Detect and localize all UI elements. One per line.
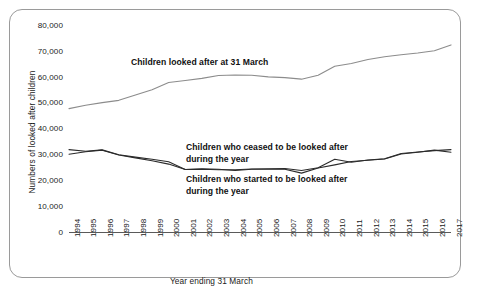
x-tick-label: 2007 <box>289 218 298 236</box>
x-tick-label: 2016 <box>438 218 447 236</box>
x-tick-label: 2015 <box>421 218 430 236</box>
y-tick-label: 0 <box>14 228 63 237</box>
x-tick-label: 1999 <box>156 218 165 236</box>
x-tick-label: 2006 <box>272 218 281 236</box>
x-tick-label: 2014 <box>405 218 414 236</box>
x-tick-label: 2012 <box>372 218 381 236</box>
y-tick-label: 10,000 <box>14 202 63 211</box>
x-tick-label: 2013 <box>388 218 397 236</box>
x-tick-label: 2011 <box>355 219 364 237</box>
x-tick-label: 2004 <box>239 218 248 236</box>
annotation-children-ceased: Children who ceased to be looked after d… <box>186 142 348 165</box>
x-axis-title: Year ending 31 March <box>170 276 253 286</box>
annotation-ceased-line2: during the year <box>186 154 348 166</box>
x-tick-label: 2009 <box>322 218 331 236</box>
x-tick-label: 2003 <box>222 218 231 236</box>
annotation-started-line2: during the year <box>186 186 347 198</box>
x-tick-label: 2008 <box>305 218 314 236</box>
x-tick-label: 2000 <box>172 218 181 236</box>
x-tick-label: 1994 <box>73 218 82 236</box>
x-tick-label: 1995 <box>89 218 98 236</box>
y-tick-label: 50,000 <box>14 98 63 107</box>
annotation-ceased-line1: Children who ceased to be looked after <box>186 142 348 154</box>
y-tick-label: 60,000 <box>14 73 63 82</box>
y-tick-label: 80,000 <box>14 21 63 30</box>
x-tick-label: 2002 <box>205 218 214 236</box>
y-axis-title: Numbers of looked after children <box>27 52 37 212</box>
chart-figure: 010,00020,00030,00040,00050,00060,00070,… <box>0 0 479 296</box>
y-tick-label: 40,000 <box>14 124 63 133</box>
x-tick-label: 1998 <box>139 218 148 236</box>
x-tick-label: 2017 <box>455 218 464 236</box>
annotation-children-looked-after: Children looked after at 31 March <box>131 57 268 69</box>
y-tick-label: 70,000 <box>14 47 63 56</box>
series-line <box>69 45 451 109</box>
x-tick-label: 2005 <box>255 218 264 236</box>
annotation-started-line1: Children who started to be looked after <box>186 174 347 186</box>
x-tick-label: 1996 <box>106 218 115 236</box>
annotation-total-line1: Children looked after at 31 March <box>131 57 268 69</box>
x-tick-label: 1997 <box>122 218 131 236</box>
x-tick-label: 2010 <box>338 218 347 236</box>
x-tick-label: 2001 <box>189 218 198 236</box>
y-tick-label: 30,000 <box>14 150 63 159</box>
y-tick-label: 20,000 <box>14 176 63 185</box>
annotation-children-started: Children who started to be looked after … <box>186 174 347 197</box>
